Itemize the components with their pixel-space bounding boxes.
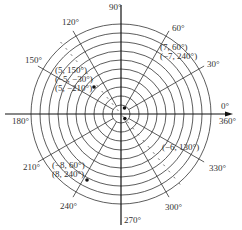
angle-label: 300° bbox=[165, 202, 183, 212]
plotted-point bbox=[123, 106, 127, 110]
angle-label: 150° bbox=[25, 55, 43, 65]
polar-grid: 0°30°60°90°120°150°180°210°240°270°300°3… bbox=[0, 0, 242, 230]
angle-label: 0° bbox=[221, 101, 230, 111]
radial-line bbox=[129, 119, 204, 163]
angle-label: 180° bbox=[12, 116, 30, 126]
radial-line bbox=[126, 122, 170, 197]
radial-line bbox=[38, 119, 113, 163]
point-label: (−7, 240°) bbox=[160, 51, 197, 61]
radial-line bbox=[129, 66, 204, 110]
point-label: (8, 240°) bbox=[52, 169, 84, 179]
angle-label: 60° bbox=[172, 23, 185, 33]
angle-label: 240° bbox=[60, 201, 78, 211]
angle-label: 120° bbox=[62, 17, 80, 27]
polar-coordinate-diagram: 0°30°60°90°120°150°180°210°240°270°300°3… bbox=[0, 0, 242, 230]
point-label: (−6, 130°) bbox=[162, 142, 199, 152]
plotted-point bbox=[92, 85, 96, 89]
angle-label: 360° bbox=[219, 116, 237, 126]
angle-label: 270° bbox=[124, 215, 142, 225]
angle-label: 330° bbox=[209, 163, 227, 173]
angle-label: 210° bbox=[23, 162, 41, 172]
angle-label: 30° bbox=[207, 59, 220, 69]
plotted-point bbox=[85, 178, 89, 182]
angle-label: 90° bbox=[109, 2, 122, 12]
point-label: (5, −210°) bbox=[55, 83, 92, 93]
plotted-point bbox=[123, 117, 127, 121]
